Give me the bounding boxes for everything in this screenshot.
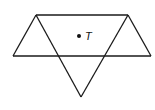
- left-outer-edge: [13, 15, 36, 56]
- point-t-label: T: [85, 30, 93, 42]
- point-t-dot: [77, 34, 81, 38]
- geometry-figure: T: [0, 0, 155, 110]
- right-outer-edge: [128, 15, 151, 56]
